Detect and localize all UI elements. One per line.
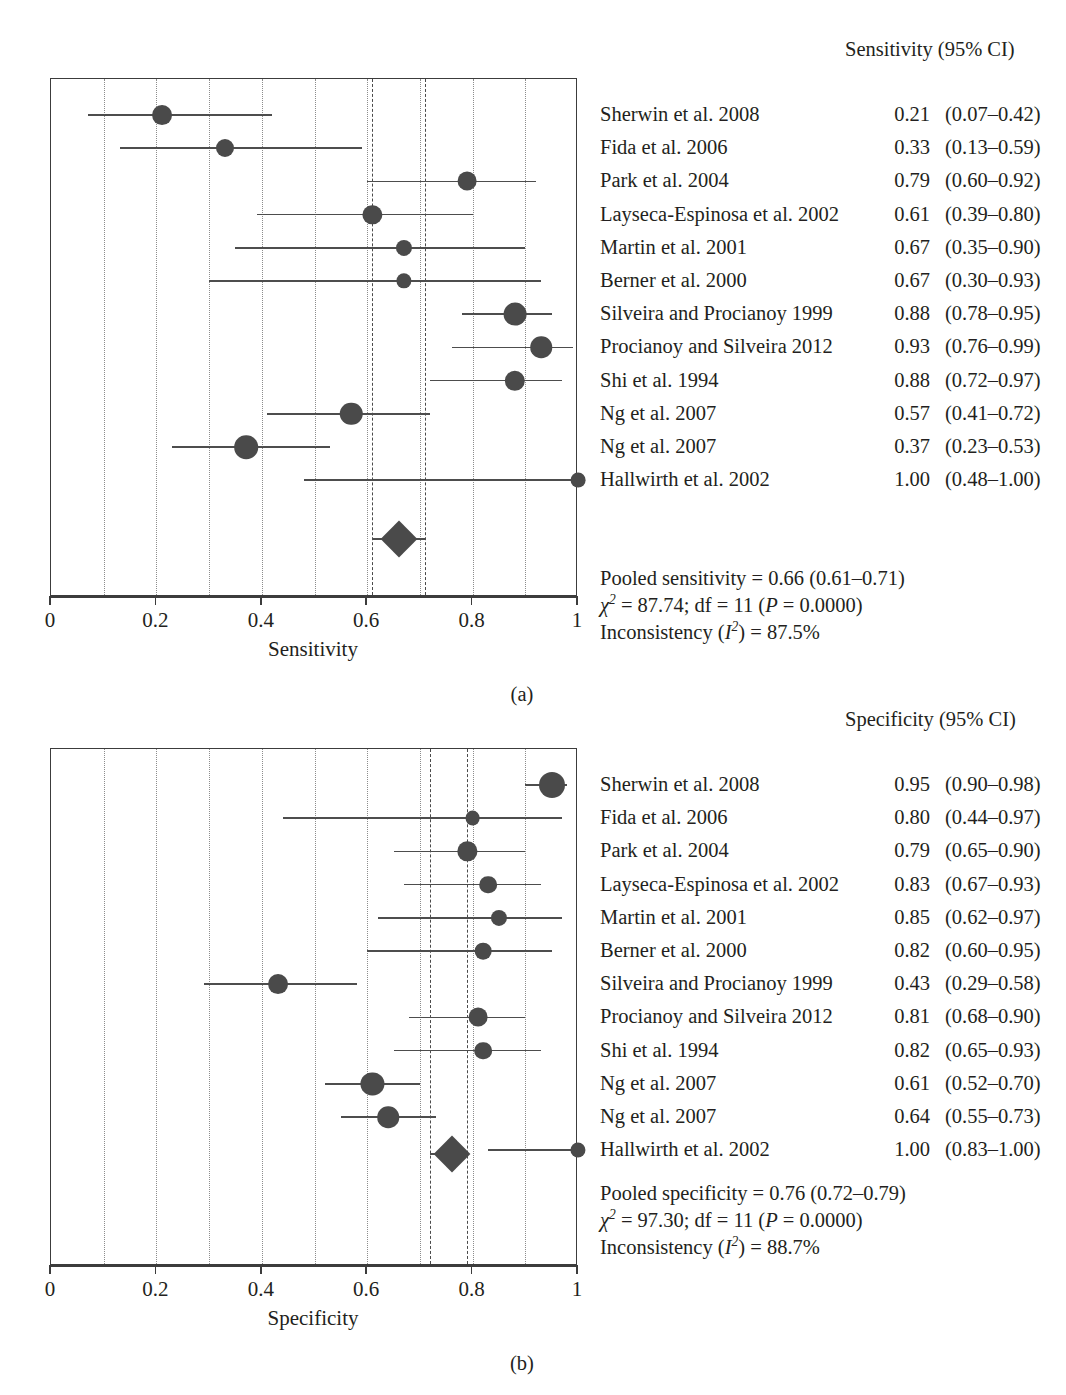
x-axis-title: Specificity (268, 1306, 359, 1331)
pooled-reference-line (430, 749, 431, 1264)
study-label: Hallwirth et al. 2002 (600, 468, 770, 491)
gridline (420, 749, 421, 1264)
x-axis-title: Sensitivity (268, 637, 358, 662)
confidence-interval-line (378, 917, 562, 919)
gridline (104, 749, 105, 1264)
study-confidence-interval: (0.65–0.93) (945, 1038, 1041, 1061)
point-estimate-marker (152, 105, 172, 125)
panel-caption: (b) (510, 1352, 534, 1375)
study-label: Procianoy and Silveira 2012 (600, 1005, 833, 1028)
x-axis-line (50, 1265, 577, 1267)
point-estimate-marker (396, 240, 412, 256)
x-axis-tick-label: 0.6 (353, 608, 379, 633)
point-estimate-marker (216, 139, 234, 157)
gridline (156, 79, 157, 595)
study-label: Procianoy and Silveira 2012 (600, 335, 833, 358)
study-confidence-interval: (0.68–0.90) (945, 1005, 1041, 1028)
confidence-interval-line (409, 1017, 525, 1019)
panel-caption: (a) (511, 683, 534, 706)
study-label: Berner et al. 2000 (600, 939, 747, 962)
study-estimate-value: 0.88 (860, 302, 930, 325)
gridline (156, 749, 157, 1264)
x-axis-line (50, 596, 577, 598)
point-estimate-marker (570, 1143, 585, 1158)
study-label: Berner et al. 2000 (600, 269, 747, 292)
study-confidence-interval: (0.60–0.95) (945, 939, 1041, 962)
confidence-interval-line (367, 181, 536, 183)
pooled-estimate-line: Pooled specificity = 0.76 (0.72–0.79) (600, 1180, 906, 1206)
point-estimate-marker (468, 1008, 487, 1027)
inconsistency-line: Inconsistency (I2) = 88.7% (600, 1233, 906, 1260)
point-estimate-marker (571, 473, 586, 488)
study-label: Silveira and Procianoy 1999 (600, 972, 833, 995)
study-estimate-value: 0.67 (860, 235, 930, 258)
plot-area (50, 78, 577, 596)
x-axis-tick-label: 1 (572, 1277, 583, 1302)
study-estimate-value: 0.21 (860, 103, 930, 126)
x-axis-tick-label: 0.2 (142, 1277, 168, 1302)
study-confidence-interval: (0.76–0.99) (945, 335, 1041, 358)
x-axis-tick (576, 596, 578, 605)
study-label: Fida et al. 2006 (600, 806, 728, 829)
x-axis-tick-label: 0.8 (458, 1277, 484, 1302)
point-estimate-marker (465, 811, 480, 826)
study-label: Martin et al. 2001 (600, 235, 747, 258)
pooled-reference-line (467, 749, 468, 1264)
point-estimate-marker (480, 876, 498, 894)
study-estimate-value: 0.61 (860, 202, 930, 225)
point-estimate-marker (491, 910, 507, 926)
study-label: Park et al. 2004 (600, 169, 729, 192)
x-axis-tick (155, 596, 157, 605)
pooled-summary-text: Pooled sensitivity = 0.66 (0.61–0.71)χ2 … (600, 565, 905, 645)
study-estimate-value: 0.81 (860, 1005, 930, 1028)
x-axis-tick (260, 1265, 262, 1274)
study-label: Layseca-Espinosa et al. 2002 (600, 202, 839, 225)
point-estimate-marker (505, 370, 525, 390)
study-estimate-value: 0.80 (860, 806, 930, 829)
confidence-interval-line (488, 1149, 578, 1151)
study-label: Ng et al. 2007 (600, 401, 716, 424)
study-label: Ng et al. 2007 (600, 435, 716, 458)
gridline (315, 749, 316, 1264)
point-estimate-marker (234, 435, 258, 459)
pooled-estimate-line: Pooled sensitivity = 0.66 (0.61–0.71) (600, 565, 905, 591)
study-label: Ng et al. 2007 (600, 1105, 716, 1128)
x-axis-tick (576, 1265, 578, 1274)
study-estimate-value: 0.83 (860, 872, 930, 895)
x-axis-tick-label: 0.4 (248, 1277, 274, 1302)
gridline (262, 749, 263, 1264)
study-estimate-value: 0.82 (860, 1038, 930, 1061)
confidence-interval-line (283, 817, 562, 819)
point-estimate-marker (530, 337, 552, 359)
x-axis-tick-label: 0.2 (142, 608, 168, 633)
study-estimate-value: 0.33 (860, 136, 930, 159)
study-estimate-value: 0.79 (860, 839, 930, 862)
study-label: Sherwin et al. 2008 (600, 103, 759, 126)
point-estimate-marker (539, 772, 565, 798)
confidence-interval-line (88, 114, 272, 116)
x-axis-tick-label: 0.4 (248, 608, 274, 633)
study-label: Silveira and Procianoy 1999 (600, 302, 833, 325)
study-label: Ng et al. 2007 (600, 1071, 716, 1094)
study-confidence-interval: (0.72–0.97) (945, 368, 1041, 391)
study-confidence-interval: (0.65–0.90) (945, 839, 1041, 862)
chi-square-line: χ2 = 97.30; df = 11 (P = 0.0000) (600, 1206, 906, 1233)
confidence-interval-line (394, 1050, 542, 1052)
study-estimate-value: 0.82 (860, 939, 930, 962)
point-estimate-marker (458, 172, 477, 191)
x-axis-tick (365, 596, 367, 605)
study-confidence-interval: (0.67–0.93) (945, 872, 1041, 895)
gridline (209, 79, 210, 595)
gridline (473, 749, 474, 1264)
study-confidence-interval: (0.90–0.98) (945, 773, 1041, 796)
results-column-header: Sensitivity (95% CI) (845, 38, 1015, 61)
study-estimate-value: 0.79 (860, 169, 930, 192)
study-label: Martin et al. 2001 (600, 905, 747, 928)
study-estimate-value: 0.43 (860, 972, 930, 995)
pooled-diamond (380, 521, 417, 558)
x-axis-tick (49, 1265, 51, 1274)
study-label: Shi et al. 1994 (600, 1038, 718, 1061)
confidence-interval-line (430, 380, 562, 382)
study-label: Hallwirth et al. 2002 (600, 1138, 770, 1161)
gridline (367, 749, 368, 1264)
